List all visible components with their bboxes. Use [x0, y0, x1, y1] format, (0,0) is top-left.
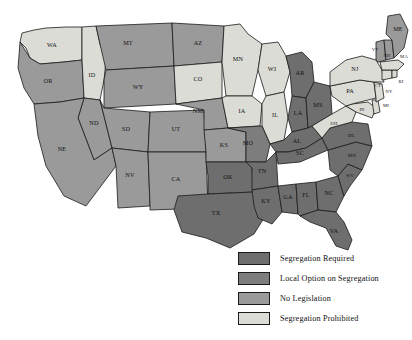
legend-swatch-segregation-prohibited: [238, 312, 270, 325]
label-GA: NC: [325, 189, 334, 196]
label-MO: MO: [243, 139, 254, 146]
label-OH: MS: [313, 101, 323, 108]
label-NJ: NY: [385, 89, 393, 94]
label-TN: SC: [296, 149, 304, 156]
label-IN: LA: [294, 109, 303, 116]
label-MS: GA: [283, 193, 293, 200]
label-FL: VA: [330, 227, 339, 234]
state-FL[interactable]: [300, 210, 352, 250]
label-ME: ME: [393, 25, 403, 32]
legend-label-segregation-required: Segregation Required: [280, 254, 354, 263]
label-OK: OK: [223, 173, 233, 180]
label-KY: AL: [293, 137, 302, 144]
label-NC: MD: [348, 153, 356, 158]
label-MI: AR: [296, 69, 306, 76]
us-segregation-map: WA OR ID MT WY ND SD NE NV UT CA AZ CO N…: [0, 0, 412, 340]
legend-swatch-segregation-required: [238, 252, 270, 265]
label-AR: TN: [258, 167, 267, 174]
label-UT: SD: [122, 125, 131, 132]
legend-label-segregation-prohibited: Segregation Prohibited: [280, 314, 359, 323]
label-SD: CO: [194, 75, 203, 82]
label-AL: FL: [302, 191, 310, 198]
label-MT: MT: [123, 39, 133, 46]
label-NH: NH: [383, 53, 391, 58]
state-MT[interactable]: [96, 23, 174, 70]
label-MN: MN: [233, 55, 244, 62]
legend-label-local-option: Local Option on Segregation: [280, 274, 379, 283]
label-MD: IN: [359, 107, 365, 112]
label-RI: RI: [399, 79, 404, 84]
label-AZ: NV: [125, 171, 135, 178]
label-NE: NM: [193, 107, 204, 114]
state-MA[interactable]: [380, 60, 404, 70]
state-SD[interactable]: [174, 62, 222, 104]
label-VA: DE: [348, 133, 355, 138]
label-CA: NE: [58, 145, 67, 152]
label-KS: KS: [220, 141, 229, 148]
legend-item-segregation-required[interactable]: Segregation Required: [238, 249, 410, 268]
label-MA: MA: [400, 54, 408, 59]
label-NV: ND: [89, 119, 99, 126]
label-WA: WA: [47, 41, 57, 48]
state-TX[interactable]: [174, 192, 264, 248]
label-IA: IA: [239, 107, 246, 114]
legend-item-no-legislation[interactable]: No Legislation: [238, 289, 410, 308]
label-CO: UT: [172, 125, 181, 132]
legend-swatch-no-legislation: [238, 292, 270, 305]
label-NY: NJ: [351, 65, 359, 72]
state-CT[interactable]: [382, 70, 392, 80]
label-DE: MI: [383, 103, 389, 108]
legend-label-no-legislation: No Legislation: [280, 294, 331, 303]
label-SC: WV: [346, 173, 355, 178]
label-WI: WI: [268, 65, 276, 72]
legend-swatch-local-option: [238, 272, 270, 285]
state-RI[interactable]: [392, 70, 397, 78]
label-ID: ID: [89, 71, 96, 78]
label-NM: CA: [172, 175, 181, 182]
legend-item-segregation-prohibited[interactable]: Segregation Prohibited: [238, 309, 410, 328]
legend-item-local-option[interactable]: Local Option on Segregation: [238, 269, 410, 288]
label-ND: AZ: [194, 39, 203, 46]
label-VT: VT: [372, 47, 379, 52]
label-IL: IL: [272, 111, 278, 118]
label-LA: KY: [261, 197, 271, 204]
map-legend: Segregation Required Local Option on Seg…: [238, 249, 410, 329]
label-WV: OH: [330, 121, 338, 126]
label-PA: PA: [346, 87, 354, 94]
label-CT: CT: [375, 83, 381, 88]
label-OR: OR: [44, 77, 54, 84]
label-WY: WY: [133, 83, 144, 90]
label-TX: TX: [212, 209, 221, 216]
